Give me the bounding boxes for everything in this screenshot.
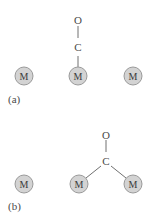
svg-text:M: M (129, 179, 138, 190)
panel-label: (b) (8, 200, 21, 213)
metal-atom: M (124, 67, 142, 85)
svg-text:M: M (74, 71, 83, 82)
panel-a: O C M M M (a) (8, 14, 142, 106)
metal-atom: M (69, 67, 87, 85)
co-binding-diagram: O C M M M (a) O C M M M (0, 0, 154, 215)
metal-atom: M (70, 175, 88, 193)
metal-atom: M (15, 175, 33, 193)
carbon-atom: C (74, 41, 81, 53)
metal-atom: M (124, 175, 142, 193)
bond-m-c-right (111, 166, 126, 178)
carbon-atom: C (102, 155, 109, 167)
oxygen-atom: O (102, 129, 110, 141)
svg-text:M: M (20, 71, 29, 82)
svg-text:M: M (129, 71, 138, 82)
panel-b: O C M M M (b) (8, 129, 142, 213)
svg-text:M: M (75, 179, 84, 190)
metal-atom: M (15, 67, 33, 85)
svg-text:M: M (20, 179, 29, 190)
bond-m-c-left (86, 166, 101, 178)
panel-label: (a) (8, 93, 21, 106)
oxygen-atom: O (74, 14, 82, 26)
